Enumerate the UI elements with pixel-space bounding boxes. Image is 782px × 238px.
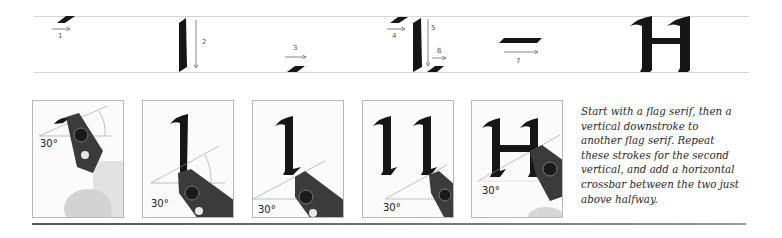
angle-label: 30° xyxy=(258,204,276,215)
stroke-4-flag-serif xyxy=(390,17,408,23)
caption-line: vertical downstroke to xyxy=(581,119,781,134)
stroke-7-crossbar xyxy=(499,38,542,43)
angle-label: 30° xyxy=(40,138,58,149)
caption-line: crossbar between the two just xyxy=(581,177,781,192)
caption-line: vertical, and add a horizontal xyxy=(581,162,781,177)
angle-label: 30° xyxy=(383,202,401,213)
step-number-6: 6 xyxy=(437,47,441,55)
caption-line: another flag serif. Repeat xyxy=(581,133,781,148)
panel-2-downstroke: 30° xyxy=(142,100,234,218)
panel-4-second-vertical: 30° xyxy=(362,100,454,218)
step-number-4: 4 xyxy=(392,32,396,40)
stroke-6-flag-serif xyxy=(427,66,444,72)
caption-line: above halfway. xyxy=(581,192,781,207)
instruction-caption: Start with a flag serif, then a vertical… xyxy=(581,104,781,206)
panel-1-flag-serif: 30° xyxy=(32,100,124,218)
step-number-3: 3 xyxy=(293,44,297,52)
panel-3-base-serif: 30° xyxy=(252,100,344,218)
stroke-2-downstroke xyxy=(179,18,187,72)
step-number-5: 5 xyxy=(431,24,435,32)
caption-line: these strokes for the second xyxy=(581,148,781,163)
caption-line: Start with a flag serif, then a xyxy=(581,104,781,119)
stroke-5-downstroke xyxy=(413,18,422,72)
stroke-3-flag-serif xyxy=(287,66,305,72)
angle-label: 30° xyxy=(482,185,500,196)
panel-5-crossbar: 30° xyxy=(471,100,563,218)
section-divider xyxy=(32,223,746,225)
step-number-1: 1 xyxy=(58,32,62,40)
stroke-illustrations xyxy=(0,0,782,90)
step-number-7: 7 xyxy=(516,57,520,65)
stroke-1-flag-serif xyxy=(57,16,75,23)
angle-label: 30° xyxy=(151,198,169,209)
step-number-2: 2 xyxy=(202,38,206,46)
finished-letter-h xyxy=(630,16,694,72)
